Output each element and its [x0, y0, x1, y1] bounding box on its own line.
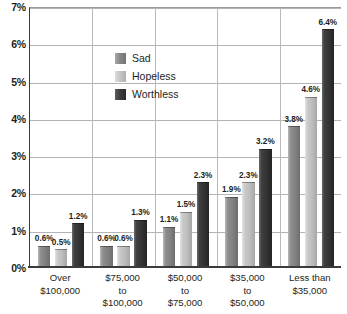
bar-value-label: 0.5%	[52, 239, 71, 247]
bar-wrap: 1.2%	[72, 8, 85, 268]
bar-group: 3.8%4.6%6.4%	[280, 8, 342, 268]
x-category-line: Over	[29, 272, 91, 285]
bar-worthless[interactable]	[72, 223, 85, 268]
legend-label: Sad	[132, 53, 151, 64]
bar-wrap: 1.1%	[163, 8, 176, 268]
legend-swatch-icon	[115, 53, 126, 64]
bar-worthless[interactable]	[134, 220, 147, 268]
bar-value-label: 3.2%	[256, 138, 275, 146]
bar-value-label: 3.8%	[284, 116, 303, 124]
x-category-line: to	[91, 285, 153, 298]
bar-value-label: 4.6%	[301, 86, 320, 94]
legend-item-sad[interactable]: Sad	[115, 52, 179, 65]
y-tick-label: 4%	[11, 114, 26, 125]
x-category-line: $35,000	[216, 272, 278, 285]
bar-wrap: 2.3%	[197, 8, 210, 268]
bar-group: 1.1%1.5%2.3%	[155, 8, 217, 268]
bar-hopeless[interactable]	[117, 246, 130, 268]
x-category-label: $35,000to$50,000	[216, 272, 278, 310]
bar-sad[interactable]	[38, 246, 51, 268]
bar-worthless[interactable]	[322, 29, 335, 268]
plot-area: 0.6%0.5%1.2%0.6%0.6%1.3%1.1%1.5%2.3%1.9%…	[29, 7, 341, 268]
x-category-label: $75,000to$100,000	[91, 272, 153, 310]
legend-item-worthless[interactable]: Worthless	[115, 88, 179, 101]
bar-sad[interactable]	[100, 246, 113, 268]
y-tick-label: 2%	[11, 188, 26, 199]
bar-wrap: 0.6%	[38, 8, 51, 268]
bar-sad[interactable]	[288, 126, 301, 268]
x-axis: Over$100,000$75,000to$100,000$50,000to$7…	[29, 272, 341, 314]
bar-hopeless[interactable]	[55, 249, 68, 268]
bar-value-label: 0.6%	[97, 235, 116, 243]
bar-value-label: 1.1%	[160, 216, 179, 224]
bar-sad[interactable]	[225, 197, 238, 268]
bar-hopeless[interactable]	[305, 97, 318, 269]
bar-value-label: 1.9%	[222, 186, 241, 194]
x-category-line: $50,000	[154, 272, 216, 285]
y-tick-label: 6%	[11, 39, 26, 50]
bar-wrap: 6.4%	[322, 8, 335, 268]
legend-label: Worthless	[132, 89, 179, 100]
x-category-label: Less than$35,000	[279, 272, 341, 297]
bar-wrap: 1.3%	[134, 8, 147, 268]
legend-item-hopeless[interactable]: Hopeless	[115, 70, 179, 83]
y-axis: 0%1%2%3%4%5%6%7%	[0, 0, 28, 272]
bar-value-label: 2.3%	[194, 172, 213, 180]
x-category-line: $100,000	[91, 297, 153, 310]
bar-hopeless[interactable]	[242, 182, 255, 268]
x-category-line: $35,000	[279, 285, 341, 298]
bar-value-label: 2.3%	[239, 172, 258, 180]
bar-wrap: 0.6%	[100, 8, 113, 268]
bar-wrap: 0.5%	[55, 8, 68, 268]
bar-wrap: 3.8%	[288, 8, 301, 268]
bar-value-label: 6.4%	[318, 19, 337, 27]
bar-worthless[interactable]	[197, 182, 210, 268]
bar-worthless[interactable]	[259, 149, 272, 268]
legend-swatch-icon	[115, 89, 126, 100]
y-tick-label: 1%	[11, 226, 26, 237]
bar-wrap: 3.2%	[259, 8, 272, 268]
bar-group: 0.6%0.6%1.3%	[92, 8, 154, 268]
x-category-line: to	[216, 285, 278, 298]
bar-wrap: 1.9%	[225, 8, 238, 268]
bar-value-label: 0.6%	[114, 235, 133, 243]
bar-chart: 0%1%2%3%4%5%6%7% 0.6%0.5%1.2%0.6%0.6%1.3…	[0, 0, 347, 314]
x-category-line: $100,000	[29, 285, 91, 298]
plot-inner: 0.6%0.5%1.2%0.6%0.6%1.3%1.1%1.5%2.3%1.9%…	[30, 8, 341, 268]
y-tick-label: 7%	[11, 2, 26, 13]
bar-group: 1.9%2.3%3.2%	[217, 8, 279, 268]
y-tick-label: 3%	[11, 151, 26, 162]
x-category-line: $75,000	[154, 297, 216, 310]
x-category-label: Over$100,000	[29, 272, 91, 297]
bar-value-label: 1.3%	[131, 209, 150, 217]
bar-wrap: 1.5%	[180, 8, 193, 268]
bar-wrap: 0.6%	[117, 8, 130, 268]
x-category-label: $50,000to$75,000	[154, 272, 216, 310]
bar-group: 0.6%0.5%1.2%	[30, 8, 92, 268]
bar-wrap: 2.3%	[242, 8, 255, 268]
bar-value-label: 0.6%	[35, 235, 54, 243]
x-category-line: Less than	[279, 272, 341, 285]
bar-value-label: 1.2%	[69, 213, 88, 221]
legend-label: Hopeless	[132, 71, 176, 82]
bar-hopeless[interactable]	[180, 212, 193, 268]
bar-value-label: 1.5%	[177, 201, 196, 209]
legend: SadHopelessWorthless	[115, 52, 179, 101]
y-tick-label: 5%	[11, 77, 26, 88]
bar-sad[interactable]	[163, 227, 176, 268]
x-category-line: $75,000	[91, 272, 153, 285]
x-category-line: to	[154, 285, 216, 298]
bar-wrap: 4.6%	[305, 8, 318, 268]
legend-swatch-icon	[115, 71, 126, 82]
x-axis-line	[28, 266, 341, 268]
y-tick-label: 0%	[11, 263, 26, 274]
x-category-line: $50,000	[216, 297, 278, 310]
